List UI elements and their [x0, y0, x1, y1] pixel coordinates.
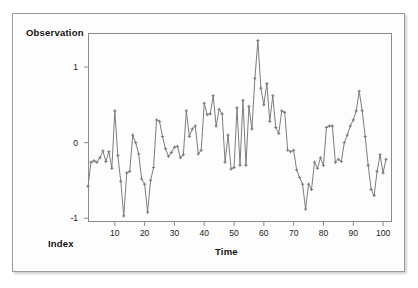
index-label: Index — [48, 238, 74, 249]
x-tick-label: 100 — [371, 228, 395, 238]
y-tick-label: 1 — [56, 62, 78, 72]
x-tick-label: 90 — [341, 228, 365, 238]
x-tick-label: 60 — [252, 228, 276, 238]
x-tick-label: 80 — [311, 228, 335, 238]
x-tick-label: 20 — [133, 228, 157, 238]
x-tick-label: 70 — [282, 228, 306, 238]
x-tick-label: 50 — [222, 228, 246, 238]
x-tick-label: 30 — [162, 228, 186, 238]
chart-screenshot: Observation Time Index -101 102030405060… — [0, 0, 418, 288]
x-tick-label: 10 — [103, 228, 127, 238]
y-tick-label: -1 — [56, 213, 78, 223]
y-axis-title: Observation — [26, 27, 84, 38]
plot-area — [88, 33, 392, 222]
x-axis-title: Time — [215, 246, 238, 257]
x-tick-label: 40 — [192, 228, 216, 238]
y-tick-label: 0 — [56, 138, 78, 148]
